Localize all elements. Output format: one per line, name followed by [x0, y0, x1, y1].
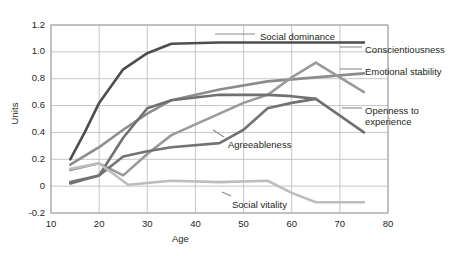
x-tick-label: 50 — [235, 218, 253, 229]
y-tick-label: 0.6 — [32, 99, 45, 110]
series-label-openness-to-experience: Openness toexperience — [365, 105, 419, 127]
x-tick-label: 60 — [283, 218, 301, 229]
series-label-conscientiousness: Conscientiousness — [365, 44, 445, 55]
y-tick-label: 1.0 — [32, 45, 45, 56]
x-tick-label: 30 — [138, 218, 156, 229]
series-label-agreeableness: Agreeableness — [228, 139, 291, 150]
y-tick-label: 1.2 — [32, 19, 45, 30]
x-tick-label: 70 — [331, 218, 349, 229]
y-tick-label: 0.8 — [32, 72, 45, 83]
series-label-social-vitality: Social vitality — [232, 199, 287, 210]
plot-background — [51, 25, 388, 213]
series-label-emotional-stability: Emotional stability — [365, 66, 442, 77]
chart-figure: Units Age -0.200.20.40.60.81.01.21020304… — [0, 0, 455, 256]
x-tick-label: 20 — [90, 218, 108, 229]
y-tick-label: -0.2 — [29, 207, 45, 218]
series-label-social-dominance: Social dominance — [260, 31, 335, 42]
y-tick-label: 0.2 — [32, 153, 45, 164]
x-tick-label: 40 — [186, 218, 204, 229]
x-tick-label: 10 — [42, 218, 60, 229]
x-axis-title: Age — [172, 233, 189, 244]
y-tick-label: 0 — [40, 180, 45, 191]
y-tick-label: 0.4 — [32, 126, 45, 137]
y-axis-title: Units — [9, 84, 20, 144]
x-tick-label: 80 — [379, 218, 397, 229]
